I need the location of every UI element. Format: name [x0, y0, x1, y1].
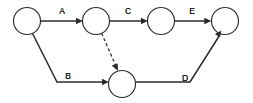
node-n3[interactable] [148, 8, 175, 35]
edge-c-label-top: C [125, 6, 131, 16]
node-n5[interactable] [109, 71, 136, 98]
edge-a-label-top: A [59, 6, 65, 16]
edge-b-arrowhead-top-icon [102, 79, 109, 85]
node-n1[interactable] [14, 8, 41, 35]
node-n4[interactable] [212, 8, 239, 35]
edge-dummy-line [102, 33, 116, 65]
edge-d: D [136, 31, 222, 84]
edge-e-arrowhead-top-icon [205, 18, 212, 24]
edge-d-line [136, 36, 220, 83]
edge-e-label-top: E [189, 6, 195, 16]
network-diagram: A C E B D [0, 0, 253, 103]
edge-b-label-top: B [65, 71, 71, 81]
edge-c-arrowhead-top-icon [141, 18, 148, 24]
edge-a-arrowhead-top-icon [76, 18, 83, 24]
network-diagram-canvas: A C E B D [0, 0, 253, 103]
node-n2[interactable] [83, 8, 110, 35]
edge-d-label-top: D [182, 73, 188, 83]
edge-dummy-arrowhead-top-icon [112, 64, 118, 71]
